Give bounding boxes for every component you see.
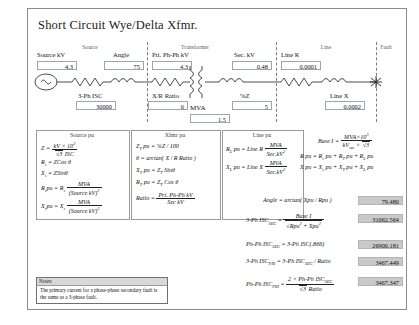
input-mva[interactable]: 1.5 (190, 114, 230, 123)
label-mva: MVA (190, 104, 205, 112)
notes-body: The primary current for a phase-phase se… (37, 286, 167, 303)
label-3ph-isc: 3-Ph ISC (78, 92, 102, 99)
xfmr-pu-line-5: Ratio = Pri. Ph-Ph kVSec kV (136, 192, 195, 205)
notes-heading: Notes: (37, 278, 167, 286)
x-pu-sum-formula: X pu = Xs pu + XT pu + XL pu (300, 164, 373, 172)
xfmr-pu-heading: Xfmr pu (131, 132, 219, 138)
xfmr-pu-line-1: ZT pu = %Z / 100 (136, 143, 179, 151)
result-label-3ph-isc-pri: 3-Ph ISCPRI = 3-Ph ISCSEC / Ratio (246, 258, 330, 266)
result-value-angle: 79.480 (358, 196, 403, 205)
worksheet: Short Circuit Wye/Delta Xfmr. Source Tra… (0, 0, 419, 325)
line-pu-heading: Line pu (222, 132, 302, 138)
input-3ph-isc[interactable]: 30000 (76, 101, 116, 110)
label-percent-z: %Z (240, 92, 250, 99)
source-pu-heading: Source pu (36, 132, 128, 138)
source-pu-line-3: Xs = ZSinθ (41, 170, 68, 178)
xfmr-pu-line-2: θ = arctan( X / R Ratio ) (136, 155, 196, 161)
result-label-3ph-isc-sec: 3-Ph ISCSEC = Base I√Rpu2 + Xpu2 (246, 213, 324, 229)
r-pu-sum-formula: R pu = Rs pu + RT pu + RL pu (300, 153, 373, 161)
result-label-angle: Angle = arctan( Xpu / Rpu ) (263, 197, 332, 203)
xfmr-pu-line-4: RT pu = ZT Cos θ (136, 179, 178, 187)
result-label-phph-isc-pri: Ph-Ph ISCPRI = 2 × Ph-Ph ISCSEC√3 Ratio (246, 276, 334, 292)
input-xr-ratio[interactable]: 6 (148, 101, 188, 110)
xfmr-pu-line-3: XT pu = ZT Sinθ (136, 167, 175, 175)
notes-box: Notes: The primary current for a phase-p… (36, 277, 168, 304)
base-i-formula: Base I = MVA×103kVsec × √3 (318, 132, 372, 150)
result-value-3ph-isc-sec: 31062.564 (358, 214, 403, 223)
label-line-x: Line X (330, 92, 349, 99)
source-pu-line-4: Rspu = Rs MVA(Source kV)2 (41, 181, 102, 196)
result-value-phph-isc-sec: 26900.181 (358, 240, 403, 249)
result-label-phph-isc-sec: Ph-Ph ISCSEC = 3-Ph ISC(.866) (246, 241, 324, 249)
label-xr-ratio: X/R Ratio (152, 92, 179, 99)
source-pu-line-2: Rs = ZCos θ (41, 159, 71, 167)
source-pu-line-1: Z = kV × 103√3 ISC (41, 141, 77, 157)
line-pu-line-1: RL pu = Line R MVASec.kV2 (226, 142, 287, 157)
source-pu-line-5: Xspu = Xs MVA(Source kV)2 (41, 199, 102, 214)
input-percent-z[interactable]: 5 (232, 101, 272, 110)
input-line-x[interactable]: 0.0002 (325, 101, 365, 110)
result-value-phph-isc-pri: 3467.347 (358, 277, 403, 286)
line-pu-line-2: XL pu = Line X MVASec.kV2 (226, 160, 287, 175)
result-value-3ph-isc-pri: 3467.449 (358, 257, 403, 266)
